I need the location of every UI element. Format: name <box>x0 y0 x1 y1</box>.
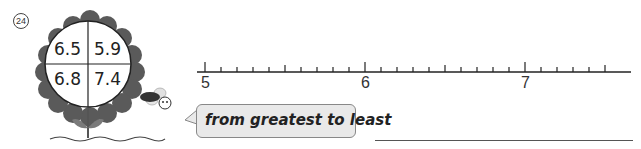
flower-value-top-left: 6.5 <box>54 39 81 59</box>
number-line <box>195 55 635 75</box>
instruction-bubble: from greatest to least <box>196 104 356 138</box>
bee-icon <box>140 88 171 109</box>
flower-value-bottom-right: 7.4 <box>94 69 121 89</box>
number-line-label-7: 7 <box>521 74 530 92</box>
flower-value-bottom-left: 6.8 <box>54 69 81 89</box>
ground-line <box>50 137 165 141</box>
answer-line[interactable] <box>375 140 633 141</box>
number-line-label-5: 5 <box>201 74 210 92</box>
flower-value-top-right: 5.9 <box>94 39 121 59</box>
number-line-label-6: 6 <box>361 74 370 92</box>
instruction-text: from greatest to least <box>205 111 391 129</box>
